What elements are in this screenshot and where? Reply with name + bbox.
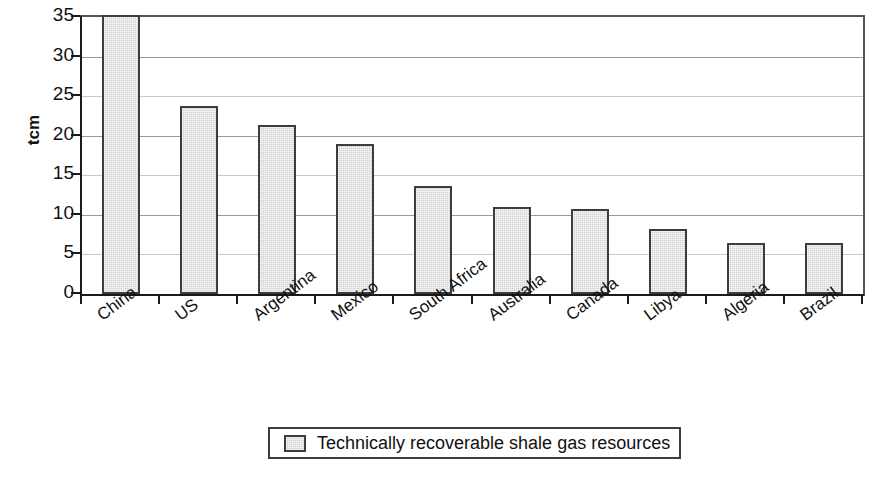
- y-axis-tick-label: 30: [34, 45, 74, 64]
- x-axis-tick-mark: [236, 294, 238, 304]
- x-axis-tick-mark: [80, 294, 82, 304]
- chart-screenshot: tcm 05101520253035 ChinaUSArgentinaMexic…: [0, 0, 869, 489]
- x-axis-tick-mark: [471, 294, 473, 304]
- plot-area: [80, 15, 865, 296]
- y-axis-tick-mark: [71, 55, 80, 57]
- bar: [258, 125, 296, 294]
- y-axis-tick-label: 5: [34, 242, 74, 261]
- y-axis-tick-label: 35: [34, 5, 74, 24]
- y-axis-tick-label: 10: [34, 203, 74, 222]
- y-axis-tick-mark: [71, 173, 80, 175]
- x-axis-tick-mark: [705, 294, 707, 304]
- y-axis-tick-label: 20: [34, 124, 74, 143]
- y-axis-tick-mark: [71, 15, 80, 17]
- y-axis-tick-mark: [71, 213, 80, 215]
- bar: [805, 243, 843, 294]
- bar: [336, 144, 374, 294]
- gridline: [82, 96, 863, 97]
- plot-inner: [82, 17, 863, 294]
- y-axis-tick-mark: [71, 94, 80, 96]
- x-axis-tick-mark: [314, 294, 316, 304]
- gridline: [82, 57, 863, 58]
- x-axis-tick-mark: [861, 294, 863, 304]
- x-axis-category-label: US: [172, 296, 201, 324]
- legend-label: Technically recoverable shale gas resour…: [317, 434, 670, 452]
- bar: [102, 15, 140, 294]
- y-axis-tick-mark: [71, 134, 80, 136]
- bar: [649, 229, 687, 294]
- x-axis-tick-mark: [627, 294, 629, 304]
- x-axis-tick-mark: [392, 294, 394, 304]
- x-axis-tick-mark: [549, 294, 551, 304]
- x-axis-tick-mark: [158, 294, 160, 304]
- chart-legend: Technically recoverable shale gas resour…: [268, 427, 681, 459]
- x-axis-tick-mark: [783, 294, 785, 304]
- y-axis-tick-mark: [71, 292, 80, 294]
- y-axis-tick-mark: [71, 252, 80, 254]
- bar: [180, 106, 218, 294]
- y-axis-tick-label: 25: [34, 84, 74, 103]
- y-axis-tick-label: 15: [34, 163, 74, 182]
- legend-swatch-icon: [284, 435, 306, 452]
- y-axis-tick-label: 0: [34, 282, 74, 301]
